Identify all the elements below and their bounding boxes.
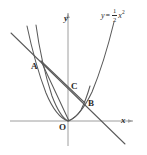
y-axis-label: y — [64, 14, 68, 23]
figure-canvas — [0, 0, 147, 155]
x-axis-label: x — [121, 116, 126, 125]
math-figure: A C B O y x y = 1 2 x 2 — [0, 0, 147, 155]
equation-fraction: 1 2 — [112, 8, 117, 23]
point-label-origin: O — [59, 123, 66, 132]
equation-equals-sign: = — [106, 12, 111, 20]
fraction-numerator: 1 — [112, 8, 117, 15]
point-label-b: B — [88, 99, 94, 108]
x-axis-arrow — [128, 119, 133, 123]
equation-label: y = 1 2 x 2 — [101, 8, 125, 23]
narrow-parabola-curve — [36, 25, 90, 121]
wide-parabola-curve — [27, 22, 114, 121]
equation-lhs: y — [101, 12, 105, 20]
point-label-a: A — [31, 62, 38, 71]
fraction-denominator: 2 — [112, 17, 117, 24]
point-label-c: C — [71, 82, 78, 91]
equation-exponent: 2 — [122, 10, 125, 16]
